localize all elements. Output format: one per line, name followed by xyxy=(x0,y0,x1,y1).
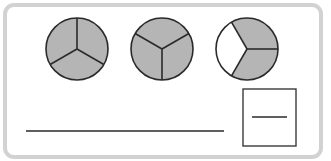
fraction-circles xyxy=(46,18,278,80)
fraction-answer-box[interactable] xyxy=(243,89,296,146)
circle-3 xyxy=(216,18,278,80)
circle-2 xyxy=(131,18,193,80)
fraction-diagram xyxy=(0,0,331,161)
circle-1 xyxy=(46,18,108,80)
